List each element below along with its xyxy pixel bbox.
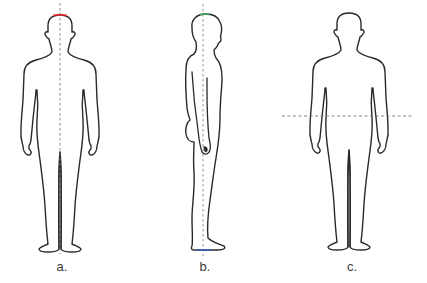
figure-c-label: c. bbox=[347, 259, 357, 274]
figure-b-outline bbox=[186, 14, 225, 250]
figure-b-side-view bbox=[186, 14, 225, 250]
figure-c-inner-legs bbox=[348, 150, 351, 247]
figure-c-front-view bbox=[310, 13, 389, 250]
figure-b-hand-fill bbox=[204, 147, 207, 152]
figure-a-head-highlight bbox=[53, 15, 67, 16]
figure-b-label: b. bbox=[200, 259, 211, 274]
figure-b-head-highlight bbox=[200, 14, 209, 15]
figure-a-label: a. bbox=[57, 259, 68, 274]
figure-c-outline bbox=[310, 13, 389, 250]
figure-b-arm bbox=[192, 72, 210, 154]
anatomical-planes-diagram bbox=[0, 0, 427, 283]
